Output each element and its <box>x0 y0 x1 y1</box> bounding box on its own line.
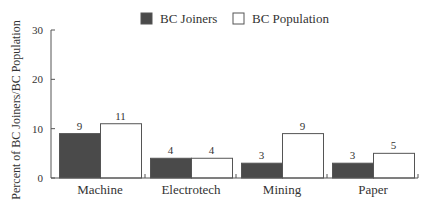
legend-swatch <box>233 13 244 24</box>
legend-item-0: BC Joiners <box>141 11 217 26</box>
bar-group-mining: 39 <box>242 120 324 178</box>
bar-group-machine: 911 <box>60 110 142 178</box>
x-tick-label: Mining <box>263 182 302 197</box>
x-tick-label: Machine <box>77 182 123 197</box>
data-label: 4 <box>209 144 215 156</box>
x-tick-label: Paper <box>358 182 388 197</box>
bar-joiners <box>60 134 101 178</box>
bar-population <box>374 153 415 178</box>
bar-group-electrotech: 44 <box>151 144 233 178</box>
bar-joiners <box>333 163 374 178</box>
data-label: 9 <box>300 120 306 132</box>
legend: BC JoinersBC Population <box>141 11 329 26</box>
data-label: 4 <box>168 144 174 156</box>
data-label: 11 <box>115 110 126 122</box>
data-label: 3 <box>350 149 356 161</box>
data-label: 9 <box>77 120 83 132</box>
y-tick-label: 30 <box>32 24 44 36</box>
y-tick-label: 10 <box>32 123 44 135</box>
bar-population <box>192 158 233 178</box>
bar-population <box>101 124 142 178</box>
data-label: 3 <box>259 149 265 161</box>
legend-item-1: BC Population <box>233 11 329 26</box>
y-tick-label: 20 <box>32 73 44 85</box>
bar-group-paper: 35 <box>333 139 415 178</box>
bar-population <box>283 134 324 178</box>
y-axis-title: Percent of BC Joiners/BC Population <box>9 20 23 199</box>
legend-label: BC Population <box>252 11 329 26</box>
bars: 911443935 <box>60 110 415 178</box>
bar-chart: BC JoinersBC Population 0102030 Percent … <box>0 0 432 208</box>
legend-swatch <box>141 13 152 24</box>
bar-joiners <box>242 163 283 178</box>
legend-label: BC Joiners <box>160 11 217 26</box>
x-tick-label: Electrotech <box>161 182 221 197</box>
y-axis-label: Percent of BC Joiners/BC Population <box>9 20 23 199</box>
y-axis: 0102030 <box>32 24 55 184</box>
bar-joiners <box>151 158 192 178</box>
data-label: 5 <box>391 139 397 151</box>
y-tick-label: 0 <box>38 172 44 184</box>
